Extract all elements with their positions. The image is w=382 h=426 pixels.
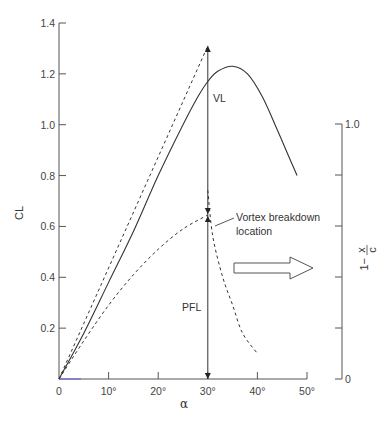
- x-tick-label: 10°: [101, 385, 117, 397]
- lift-coefficient-chart: 0.20.40.60.81.01.21.4010°20°30°40°50°01.…: [0, 0, 382, 426]
- y2-tick-label: 1.0: [345, 118, 360, 130]
- potential-flow-curve: [59, 215, 208, 379]
- vl-arrowhead-up-icon: [205, 46, 211, 52]
- y2-axis-label: 1− x c: [355, 245, 378, 271]
- x-tick-label: 40°: [249, 385, 265, 397]
- y2-tick-label: 0: [345, 373, 351, 385]
- axes: [59, 23, 342, 379]
- y2-label-denominator: c: [366, 247, 378, 253]
- y-tick-label: 0.8: [40, 170, 55, 182]
- y-tick-label: 1.4: [40, 17, 55, 29]
- vortex-breakdown-label-line2: location: [236, 225, 272, 237]
- x-tick-label: 50°: [299, 385, 315, 397]
- tick-labels: 0.20.40.60.81.01.21.4010°20°30°40°50°01.…: [40, 17, 359, 397]
- vortex-breakdown-pointer: [215, 218, 234, 226]
- hollow-right-arrow-icon: [234, 257, 313, 279]
- y2-label-prefix: 1−: [358, 258, 370, 271]
- vortex-lift-line: [59, 46, 208, 379]
- vortex-breakdown-label-line1: Vortex breakdown: [236, 211, 320, 223]
- vl-label: VL: [213, 92, 226, 104]
- pfl-arrowhead-down-icon: [205, 373, 211, 379]
- y-tick-label: 0.4: [40, 271, 55, 283]
- y-tick-label: 0.2: [40, 322, 55, 334]
- x-tick-label: 30°: [200, 385, 216, 397]
- y-tick-label: 0.6: [40, 220, 55, 232]
- y-tick-label: 1.2: [40, 68, 55, 80]
- x-tick-label: 0: [56, 385, 62, 397]
- pfl-label: PFL: [182, 301, 201, 313]
- x-axis-label: α: [180, 397, 188, 411]
- y-tick-label: 1.0: [40, 119, 55, 131]
- x-tick-label: 20°: [150, 385, 166, 397]
- y-axis-label: CL: [13, 206, 25, 220]
